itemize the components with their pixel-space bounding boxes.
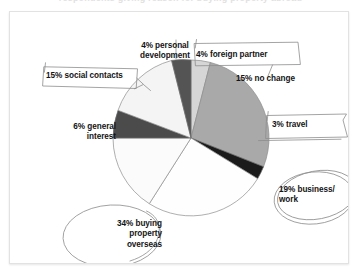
pie-label-general-interest: 6% general interest (38, 122, 116, 143)
pie-label-travel: 3% travel (272, 120, 342, 130)
clipped-header-text: respondents giving reason for buying pro… (0, 0, 361, 5)
annotation-underline-travel (259, 139, 342, 140)
annotation-tick-travel (267, 112, 268, 121)
pie-label-buying-property: 34% buying property overseas (72, 219, 162, 250)
pie-label-no-change: 15% no change (236, 74, 322, 84)
pie-label-foreign-partner: 4% foreign partner (196, 50, 306, 60)
figure-frame: 4% personal development 4% foreign partn… (9, 11, 349, 264)
pie-label-business-work: 19% business/ work (279, 185, 349, 206)
pie-chart: 4% personal development 4% foreign partn… (10, 12, 349, 264)
pie-label-social-contacts: 15% social contacts (46, 71, 150, 81)
